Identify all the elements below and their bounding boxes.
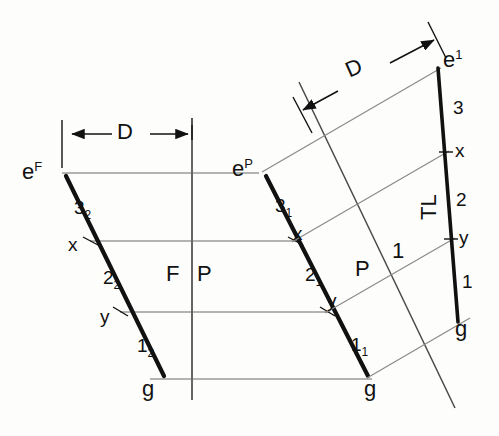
label-segment-2-frontal: 22 bbox=[103, 268, 120, 291]
label-point-g-auxiliary: g bbox=[455, 318, 467, 340]
label-point-y-auxiliary: y bbox=[459, 228, 469, 247]
drawing-canvas-root: eF 32 x 22 y 12 g F P D eP 31 x 21 y 11 … bbox=[0, 0, 499, 436]
label-point-y-frontal: y bbox=[100, 307, 110, 326]
label-segment-1-auxiliary: 1 bbox=[462, 272, 473, 291]
label-point-e-profile: eP bbox=[232, 157, 253, 180]
label-point-g-profile: g bbox=[364, 378, 376, 400]
label-point-e-frontal: eF bbox=[22, 160, 42, 183]
label-point-g-frontal: g bbox=[142, 378, 154, 400]
label-segment-2-auxiliary: 2 bbox=[456, 190, 467, 209]
fold-label-p-left: P bbox=[197, 263, 212, 285]
dimension-label-d-left: D bbox=[117, 121, 133, 143]
label-point-x-profile: x bbox=[293, 224, 303, 243]
label-segment-2-profile: 21 bbox=[305, 265, 322, 288]
label-point-x-auxiliary: x bbox=[455, 141, 465, 160]
fold-label-1: 1 bbox=[392, 240, 404, 262]
fold-label-f: F bbox=[166, 263, 179, 285]
label-point-e-auxiliary: e1 bbox=[443, 48, 462, 71]
label-point-y-profile: y bbox=[327, 291, 337, 310]
label-segment-1-frontal: 12 bbox=[137, 336, 154, 359]
fold-label-p-right: P bbox=[355, 258, 370, 280]
label-true-length-tl: TL bbox=[418, 194, 440, 220]
label-segment-3-frontal: 32 bbox=[74, 198, 91, 221]
label-point-x-frontal: x bbox=[68, 235, 78, 254]
fold-line-p1 bbox=[299, 82, 455, 408]
label-segment-1-profile: 11 bbox=[351, 335, 368, 358]
label-segment-3-auxiliary: 3 bbox=[453, 98, 464, 117]
label-segment-3-profile: 31 bbox=[275, 196, 292, 219]
